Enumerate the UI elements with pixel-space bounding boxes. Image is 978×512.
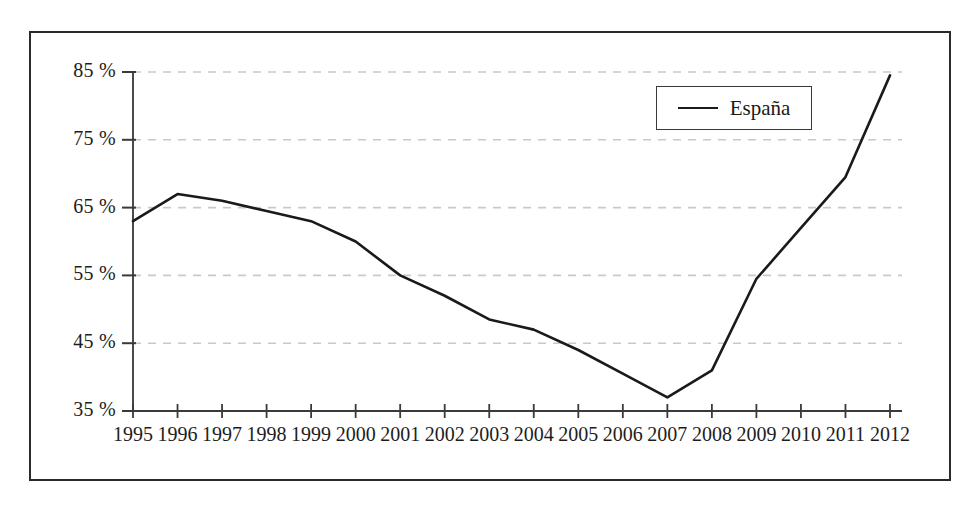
legend-label-espana: España bbox=[730, 96, 791, 121]
legend-line-swatch bbox=[678, 107, 718, 109]
chart-screenshot: 85 %75 %65 %55 %45 %35 % 199519961997199… bbox=[0, 0, 978, 512]
y-tick-label: 45 % bbox=[40, 330, 116, 353]
y-tick-label: 35 % bbox=[40, 398, 116, 421]
chart-legend: España bbox=[656, 86, 812, 130]
y-tick-label: 55 % bbox=[40, 262, 116, 285]
y-tick-label: 65 % bbox=[40, 195, 116, 218]
y-tick-label: 85 % bbox=[40, 59, 116, 82]
x-tick-label: 2012 bbox=[860, 423, 920, 446]
y-tick-label: 75 % bbox=[40, 127, 116, 150]
